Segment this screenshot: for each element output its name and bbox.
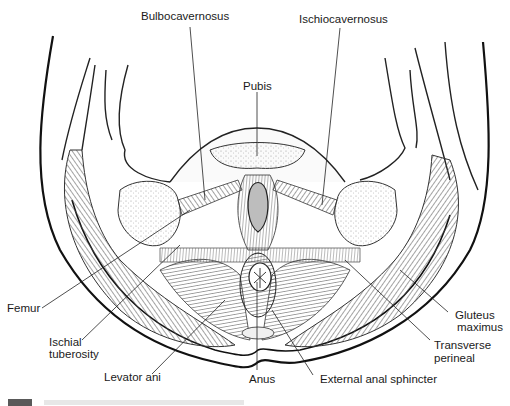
label-external-anal-sphincter: External anal sphincter [320,373,437,386]
label-transverse-perineal-1: Transverse [434,339,491,352]
label-pubis: Pubis [243,80,272,93]
ischial-tuberosity-right [335,181,397,245]
label-transverse-perineal-2: perineal [434,352,475,365]
caption-text-fragment [44,400,244,405]
caption-figure-number-fragment [8,399,32,406]
pubis-bone [210,143,305,169]
coccyx [242,327,274,339]
ischiocavernosus-left [178,180,242,215]
label-gluteus-maximus-2: maximus [457,321,503,334]
label-bulbocavernosus: Bulbocavernosus [141,10,229,23]
right-thigh [360,42,478,190]
ischiocavernosus-right [273,180,337,215]
label-levator-ani: Levator ani [104,371,161,384]
anatomy-figure: Bulbocavernosus Ischiocavernosus Pubis F… [0,0,510,406]
label-femur: Femur [7,302,40,315]
label-ischial-tuberosity-2: tuberosity [49,348,99,361]
ischial-tuberosity-left [118,181,180,245]
label-ischiocavernosus: Ischiocavernosus [299,13,388,26]
label-anus: Anus [249,373,275,386]
